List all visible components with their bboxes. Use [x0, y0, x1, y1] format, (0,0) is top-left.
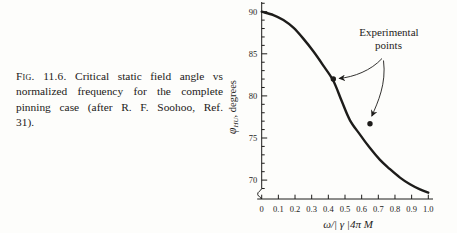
theory-curve: [262, 12, 429, 193]
x-tick-label: 0.5: [340, 204, 351, 214]
annotation-text-line2: points: [375, 39, 402, 51]
y-tick-label: 70: [249, 175, 258, 185]
figure-caption: Fig. 11.6. Critical static field angle v…: [16, 69, 223, 131]
x-tick-label: 0.6: [356, 204, 367, 214]
y-tick-label: 75: [249, 133, 258, 143]
caption-line-4: 31).: [16, 115, 223, 130]
x-axis-title: ω/| γ |4π M: [323, 218, 373, 230]
x-tick-label: 0: [260, 204, 264, 214]
y-tick-label: 80: [249, 91, 258, 101]
annotation-arrow-right: [372, 61, 384, 117]
caption-fig-label: Fig. 11.6.: [16, 70, 67, 82]
chart: 707580859000.10.20.30.40.50.60.70.80.91.…: [225, 0, 457, 233]
x-tick-label: 1.0: [423, 204, 434, 214]
y-axis-title-rest: , degrees: [227, 80, 238, 117]
annotation: Experimentalpoints: [339, 26, 418, 116]
figure-page: Fig. 11.6. Critical static field angle v…: [0, 0, 457, 233]
x-tick-label: 0.8: [390, 204, 401, 214]
experimental-point: [367, 121, 372, 126]
x-tick-label: 0.9: [406, 204, 417, 214]
y-axis-title-text: φHU, degrees: [226, 80, 240, 134]
x-tick-label: 0.7: [373, 204, 384, 214]
x-tick-label: 0.4: [323, 204, 334, 214]
y-tick-label: 85: [249, 49, 258, 59]
x-tick-label: 0.1: [273, 204, 284, 214]
annotation-arrow-left: [339, 59, 382, 79]
caption-line-1-text: Critical static field angle vs: [75, 70, 223, 82]
x-tick-label: 0.2: [290, 204, 301, 214]
y-axis-break-icon: [258, 189, 262, 200]
experimental-point: [331, 76, 336, 81]
y-tick-label: 90: [249, 7, 258, 17]
caption-line-1: Fig. 11.6. Critical static field angle v…: [16, 69, 223, 84]
annotation-text-line1: Experimental: [359, 26, 418, 38]
caption-line-3: pinning case (after R. F. Soohoo, Ref.: [16, 100, 223, 115]
x-tick-label: 0.3: [306, 204, 317, 214]
caption-line-2: normalized frequency for the complete: [16, 84, 223, 99]
experimental-points: [331, 76, 373, 126]
y-axis-title: φHU, degrees: [226, 80, 240, 134]
